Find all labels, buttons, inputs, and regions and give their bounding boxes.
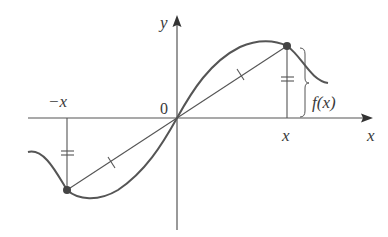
fx-brace <box>300 48 309 117</box>
neg-x-label: −x <box>48 92 67 111</box>
x-axis-label: x <box>366 126 375 145</box>
odd-function-diagram: y x 0 −x x f(x) <box>0 0 388 237</box>
fx-label: f(x) <box>312 93 336 112</box>
function-curve <box>28 41 328 198</box>
point-neg-x-neg-fx <box>63 186 71 194</box>
y-axis-label: y <box>158 13 168 32</box>
axes <box>28 24 364 230</box>
origin-label: 0 <box>160 100 168 117</box>
point-x-fx <box>283 42 291 50</box>
pos-x-label: x <box>281 126 290 145</box>
